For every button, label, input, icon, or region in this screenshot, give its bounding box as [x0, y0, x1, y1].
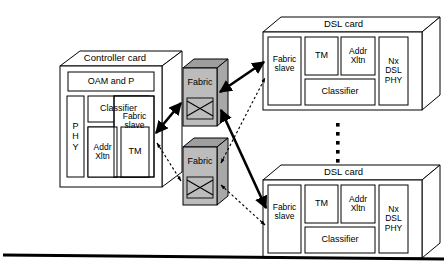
dsl-card-2-classifier-block[interactable] [305, 227, 375, 253]
fabric-2-front-face [183, 147, 217, 205]
dsl-card-1-phy-block[interactable] [379, 37, 408, 105]
dsl-card-2-fabric-slave-block[interactable] [268, 185, 301, 253]
controller-tm-block-outline [121, 127, 149, 177]
controller-card[interactable] [60, 51, 182, 187]
fabric-switch-2[interactable] [183, 138, 228, 205]
diagram-geometry [0, 0, 447, 270]
controller-card-right-face [162, 51, 182, 187]
dsl-card-1-classifier-block[interactable] [305, 79, 375, 105]
dsl-card-1-tm-block[interactable] [305, 37, 338, 75]
dsl-card-2[interactable] [263, 165, 440, 258]
dsl-card-2-top-face [263, 165, 440, 180]
dsl-card-1[interactable] [263, 17, 440, 110]
dsl-card-1-top-face [263, 17, 440, 32]
dsl-card-2-tm-block[interactable] [305, 185, 338, 223]
dsl-card-2-right-face [422, 165, 440, 258]
vertical-ellipsis [336, 123, 340, 163]
controller-oam-block[interactable] [68, 72, 154, 91]
dsl-card-1-fabric-slave-block[interactable] [268, 37, 301, 105]
dsl-card-1-right-face [422, 17, 440, 110]
controller-card-top-face [60, 51, 182, 66]
fabric-2-right-face [217, 138, 228, 205]
dsl-card-2-addr-xltn-block[interactable] [341, 185, 375, 223]
dsl-card-1-addr-xltn-block[interactable] [341, 37, 375, 75]
controller-phy-block[interactable] [67, 96, 84, 177]
fabric-1-front-face [183, 68, 217, 126]
dsl-card-2-phy-block[interactable] [379, 185, 408, 253]
diagram-canvas: Controller card OAM and P P H Y Classifi… [0, 0, 447, 270]
controller-addr-xltn-block-outline [88, 127, 117, 177]
